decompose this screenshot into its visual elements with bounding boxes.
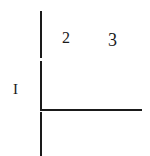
vertical-axis-lower-segment [40,112,42,156]
region-label-3: 3 [108,31,117,49]
region-label-2: 2 [62,30,70,46]
vertical-axis-upper-segment [40,11,42,58]
horizontal-axis-line [42,109,142,111]
region-label-1: I [13,82,18,97]
vertical-axis-middle-segment [40,61,42,111]
